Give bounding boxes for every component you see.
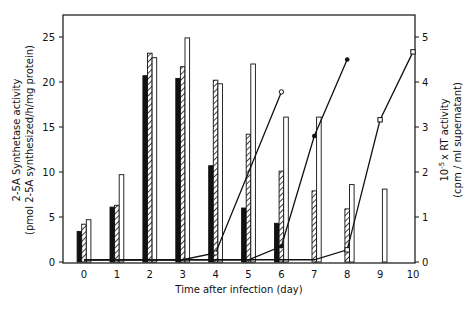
bar <box>152 58 157 262</box>
bar <box>115 205 120 262</box>
filled-circle-marker <box>345 57 350 62</box>
left-y-tick-label: 25 <box>42 32 55 43</box>
x-tick-label: 1 <box>114 269 120 280</box>
bar <box>185 38 190 262</box>
left-y-tick-label: 0 <box>49 257 55 268</box>
filled-circle-marker <box>279 244 284 249</box>
bar <box>110 207 115 262</box>
bar <box>77 231 82 262</box>
x-tick-label: 10 <box>407 269 420 280</box>
filled-circle-marker <box>312 134 317 139</box>
bar <box>119 175 124 262</box>
bar <box>284 117 289 262</box>
x-tick-label: 6 <box>278 269 284 280</box>
x-tick-label: 0 <box>81 269 87 280</box>
right-y-axis-title-line2: (cpm / ml supernatant) <box>452 82 463 198</box>
left-y-tick-label: 20 <box>42 77 55 88</box>
left-y-tick-label: 15 <box>42 122 55 133</box>
chart: 0510152025 012345 012345678910 Time afte… <box>0 0 473 310</box>
left-y-axis-title-line1: 2-5A Synthetase activity <box>11 79 22 202</box>
x-axis-title: Time after infection (day) <box>174 284 302 295</box>
x-tick-label: 3 <box>180 269 186 280</box>
right-y-tick-label: 2 <box>422 167 428 178</box>
bar <box>86 220 91 262</box>
bar <box>218 84 223 262</box>
bar <box>213 80 218 262</box>
bar <box>246 134 251 262</box>
bar <box>180 67 185 262</box>
open-square-marker <box>345 248 349 252</box>
bar <box>143 76 148 262</box>
bar <box>382 189 387 262</box>
open-square-marker <box>411 50 415 54</box>
right-y-tick-label: 0 <box>422 257 428 268</box>
bar <box>176 78 181 262</box>
right-y-tick-label: 4 <box>422 77 428 88</box>
bar <box>312 191 317 262</box>
open-circle-marker <box>279 90 283 94</box>
bar <box>242 208 247 262</box>
x-tick-label: 2 <box>147 269 153 280</box>
bar <box>209 166 214 262</box>
bar <box>345 209 350 262</box>
x-axis: 012345678910 <box>81 269 420 280</box>
x-tick-label: 5 <box>245 269 251 280</box>
right-y-tick-label: 1 <box>422 212 428 223</box>
left-y-tick-label: 10 <box>42 167 55 178</box>
left-y-axis-title: 2-5A Synthetase activity (pmol 2-5A synt… <box>11 45 35 235</box>
right-y-axis-title: 10-5x RT activity (cpm / ml supernatant) <box>438 82 463 198</box>
right-y-axis: 012345 <box>415 32 428 268</box>
x-tick-label: 9 <box>377 269 383 280</box>
left-y-axis: 0510152025 <box>42 32 63 268</box>
right-y-tick-label: 5 <box>422 32 428 43</box>
left-y-tick-label: 5 <box>49 212 55 223</box>
bar <box>148 53 153 262</box>
x-tick-label: 4 <box>212 269 218 280</box>
x-tick-label: 7 <box>311 269 317 280</box>
bar <box>275 223 280 262</box>
bar-group <box>77 38 387 262</box>
left-y-axis-title-line2: (pmol 2-5A synthesized/h/mg protein) <box>24 45 35 235</box>
x-tick-label: 8 <box>344 269 350 280</box>
open-circle-marker <box>213 251 217 255</box>
open-square-marker <box>378 118 382 122</box>
right-y-tick-label: 3 <box>422 122 428 133</box>
bar <box>251 64 256 262</box>
right-y-axis-title-line1: 10-5x RT activity <box>438 98 450 181</box>
bar <box>317 117 322 262</box>
bar <box>82 224 87 262</box>
